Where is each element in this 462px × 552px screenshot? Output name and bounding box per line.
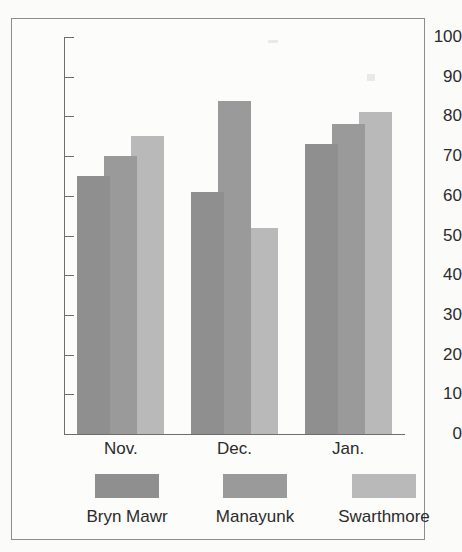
y-tick-mark (65, 434, 74, 435)
legend-item: Manayunk (195, 474, 315, 525)
bar-bryn-mawr-nov (77, 176, 110, 434)
x-axis-line (64, 434, 405, 435)
y-tick-label: 30 (418, 306, 462, 323)
legend-label: Manayunk (195, 508, 315, 525)
y-tick-label: 90 (418, 68, 462, 85)
legend-swatch (223, 474, 287, 498)
y-tick-label: 100 (418, 28, 462, 45)
y-tick-label: 50 (418, 227, 462, 244)
legend-swatch (95, 474, 159, 498)
legend-item: Bryn Mawr (67, 474, 187, 525)
chart-legend: Bryn MawrManayunkSwarthmore (0, 474, 462, 534)
y-tick-label: 60 (418, 187, 462, 204)
legend-label: Swarthmore (324, 508, 444, 525)
y-tick-label: 0 (418, 425, 462, 442)
plot-bars (64, 37, 405, 434)
y-tick-label: 10 (418, 385, 462, 402)
x-category-label: Jan. (308, 440, 388, 457)
y-tick-label: 20 (418, 346, 462, 363)
y-tick-label: 80 (418, 107, 462, 124)
bar-bryn-mawr-jan (305, 144, 338, 434)
legend-swatch (352, 474, 416, 498)
x-category-label: Dec. (195, 440, 275, 457)
y-tick-label: 70 (418, 147, 462, 164)
y-tick-label: 40 (418, 266, 462, 283)
bar-chart: 1009080706050403020100 Nov.Dec.Jan. Bryn… (0, 0, 462, 552)
x-category-label: Nov. (81, 440, 161, 457)
bar-bryn-mawr-dec (191, 192, 224, 434)
legend-item: Swarthmore (324, 474, 444, 525)
legend-label: Bryn Mawr (67, 508, 187, 525)
